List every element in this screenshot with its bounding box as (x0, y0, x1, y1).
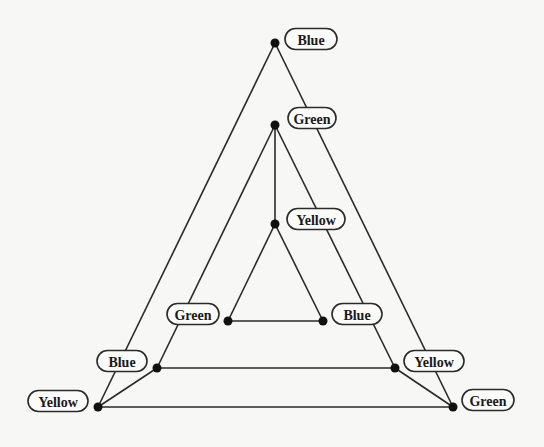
node-label-pill: Yellow (287, 209, 345, 230)
node-label-pill: Blue (285, 29, 337, 50)
graph-nodes (94, 39, 458, 412)
node-label-pill: Green (462, 390, 514, 411)
node-label-text: Blue (108, 355, 135, 370)
node-label-text: Blue (343, 308, 370, 323)
graph-edge (157, 125, 275, 368)
graph-node (224, 317, 233, 326)
node-label-text: Yellow (296, 213, 337, 228)
node-label-text: Yellow (414, 355, 455, 370)
node-label-pill: Green (167, 304, 219, 325)
node-label-pill: Yellow (404, 351, 464, 372)
graph-node (94, 403, 103, 412)
node-label-text: Green (174, 308, 211, 323)
node-label-pill: Green (288, 108, 336, 129)
graph-edge (275, 224, 323, 321)
graph-node (153, 364, 162, 373)
node-label-text: Yellow (38, 395, 79, 410)
node-label-pill: Blue (332, 304, 382, 325)
graph-diagram: BlueGreenYellowGreenBlueBlueYellowYellow… (0, 0, 544, 447)
node-label-text: Green (469, 394, 506, 409)
graph-node (319, 317, 328, 326)
graph-edge (228, 224, 275, 321)
graph-edge (275, 125, 395, 368)
graph-node (271, 121, 280, 130)
node-label-pill: Yellow (28, 391, 88, 412)
graph-node (271, 220, 280, 229)
graph-node (271, 39, 280, 48)
node-labels: BlueGreenYellowGreenBlueBlueYellowYellow… (28, 29, 514, 412)
node-label-pill: Blue (97, 351, 147, 372)
graph-node (391, 364, 400, 373)
node-label-text: Blue (297, 33, 324, 48)
graph-node (449, 403, 458, 412)
node-label-text: Green (293, 112, 330, 127)
